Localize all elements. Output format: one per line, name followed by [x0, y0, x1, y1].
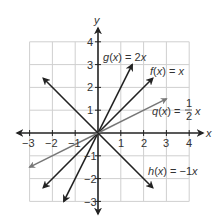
coordinate-plane: y x −3 −2 −1 1 2 3 4 4 3 2 1 −1 −2 −3 g(… — [0, 0, 221, 222]
x-tick-label: −3 — [22, 137, 35, 149]
y-axis-label: y — [93, 14, 101, 26]
x-tick-label: 1 — [118, 137, 124, 149]
x-tick-label: −1 — [68, 137, 81, 149]
label-h: h(x) = −1x — [148, 165, 198, 177]
line-g — [98, 65, 132, 133]
y-tick-label: 1 — [87, 104, 93, 116]
y-tick-label: 2 — [87, 81, 93, 93]
label-g: g(x) = 2x — [103, 51, 147, 63]
x-tick-label: 3 — [163, 137, 169, 149]
line-f — [98, 78, 153, 133]
x-tick-label: 4 — [186, 137, 192, 149]
label-f: f(x) = x — [150, 65, 184, 77]
x-axis-label: x — [205, 127, 212, 139]
x-tick-label: 2 — [141, 137, 147, 149]
label-q: q(x) = 1 2 x — [152, 97, 201, 122]
x-tick-label: −2 — [45, 137, 58, 149]
svg-text:2: 2 — [186, 110, 192, 122]
y-tick-label: −1 — [84, 150, 97, 162]
svg-text:1: 1 — [186, 97, 192, 109]
y-tick-label: −3 — [84, 196, 97, 208]
svg-text:x: x — [194, 105, 201, 117]
svg-text:q(x) =: q(x) = — [152, 105, 180, 117]
y-tick-label: 3 — [87, 59, 93, 71]
y-tick-label: 4 — [87, 36, 93, 48]
y-tick-label: −2 — [84, 173, 97, 185]
